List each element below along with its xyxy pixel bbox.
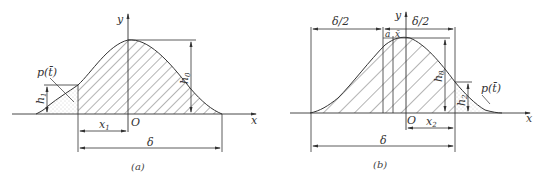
hatched-region [78,40,222,114]
a-label: a [385,29,390,39]
density-label: p(t̄) [481,82,501,95]
origin-label: O [407,114,416,127]
h1-label: h1 [34,92,48,104]
origin-label: O [131,116,140,129]
diagram-canvas: y x O p(t̄) h1 h0 x1 δ (a) [0,0,541,184]
caption-a: (a) [131,161,145,172]
x2-label: x2 [426,115,437,129]
x-axis-label: x [251,114,258,127]
xbar-label: x̄ [395,29,400,39]
x1-label: x1 [99,118,110,132]
figure-a: y x O p(t̄) h1 h0 x1 δ (a) [12,13,258,172]
delta-label: δ [147,136,154,149]
half-delta-right-label: δ/2 [412,15,429,28]
caption-b: (b) [373,159,387,170]
h0-label: h0 [178,72,192,84]
x-axis-label: x [526,112,533,125]
density-label: p(t̄) [37,66,57,79]
svg-text:h1: h1 [34,92,48,104]
svg-text:h0: h0 [178,72,192,84]
half-delta-left-label: δ/2 [332,15,349,28]
y-axis-label: y [394,9,402,22]
y-axis-label: y [116,13,124,26]
figure-b: y x O δ/2 δ/2 a x̄ h0 h2 p(t̄) x2 δ (b) [290,9,533,170]
delta-label: δ [380,134,387,147]
